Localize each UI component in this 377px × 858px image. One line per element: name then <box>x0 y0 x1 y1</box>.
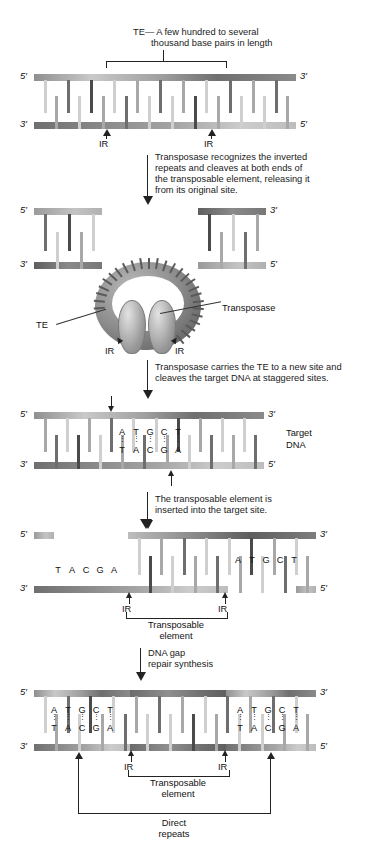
panel4-te-label-line2: element <box>126 631 226 642</box>
base-pair-rung <box>221 418 224 452</box>
base-pair-rung <box>138 538 141 575</box>
base-pair-rung <box>205 538 208 575</box>
overhang-base-left: A <box>67 566 77 575</box>
direct-repeat-right-stem <box>270 758 271 814</box>
base-pair-rung <box>229 80 232 113</box>
panel1-bottom-3prime: 3′ <box>20 118 27 129</box>
base-pair-rung <box>192 714 195 751</box>
transposase-lobe-left <box>118 300 146 354</box>
base-pair-bond: ⋮ <box>77 715 87 719</box>
panel5-bottom-left-backbone <box>34 744 130 751</box>
overhang-base-right: T <box>247 556 257 565</box>
base-pair-rung <box>171 96 174 129</box>
base-letter-bottom: A <box>173 446 183 455</box>
panel5-top-3prime: 3′ <box>320 686 327 697</box>
base-pair-rung <box>149 556 152 593</box>
base-letter-bottom: G <box>91 724 101 733</box>
base-pair-rung <box>44 696 47 733</box>
base-pair-rung <box>136 80 139 113</box>
base-pair-rung <box>88 418 91 452</box>
base-pair-bond: ⋮ <box>91 715 101 719</box>
step1-arrow-stem <box>147 155 148 199</box>
step1-caption-line4: from its original site. <box>155 185 370 196</box>
base-pair-rung <box>244 232 247 269</box>
base-pair-rung <box>181 696 184 733</box>
base-pair-bond: ⋮ <box>63 715 73 719</box>
te-length-caption-line2: thousand base pairs in length <box>151 38 371 49</box>
te-span-bracket <box>106 61 227 68</box>
base-pair-rung <box>101 714 104 751</box>
base-pair-rung <box>286 96 289 129</box>
base-pair-rung <box>110 418 113 452</box>
base-pair-rung <box>226 696 229 733</box>
panel3-bottom-3prime: 3′ <box>20 458 27 469</box>
base-letter-bottom: T <box>49 724 59 733</box>
base-pair-bond: ⋮ <box>159 437 169 441</box>
overhang-base-right: G <box>261 556 271 565</box>
step2-arrow-head <box>143 390 153 399</box>
direct-repeat-right-arrow <box>267 752 275 759</box>
base-letter-bottom: C <box>145 446 155 455</box>
target-dna-label-line2: DNA <box>286 440 306 451</box>
base-pair-bond: ⋮ <box>277 715 287 719</box>
panel1-bottom-5prime: 5′ <box>300 118 307 129</box>
base-pair-rung <box>204 696 207 733</box>
base-pair-rung <box>254 435 257 469</box>
loop-ir-left-label: IR <box>105 346 114 357</box>
base-pair-rung <box>66 418 69 452</box>
base-letter-bottom: G <box>159 446 169 455</box>
base-pair-rung <box>68 214 71 251</box>
step3-caption-line1: The transposable element is <box>155 494 370 505</box>
base-pair-rung <box>171 556 174 593</box>
base-pair-rung <box>232 435 235 469</box>
panel5-bottom-3prime: 3′ <box>20 740 27 751</box>
panel2-left-bottom-backbone <box>34 262 102 269</box>
base-pair-rung <box>194 96 197 129</box>
overhang-base-left: A <box>109 566 119 575</box>
step1-caption-line2: repeats and cleaves at both ends of <box>155 163 370 174</box>
overhang-base-left: G <box>95 566 105 575</box>
panel1-ir-left-label: IR <box>99 139 108 150</box>
base-pair-bond: ⋮ <box>117 437 127 441</box>
step4-caption-line2: repair synthesis <box>148 659 328 670</box>
base-letter-bottom: G <box>277 724 287 733</box>
panel5-top-right-backbone <box>226 690 316 697</box>
base-pair-rung <box>205 80 208 113</box>
base-pair-rung <box>228 538 231 575</box>
panel4-bottom-3prime: 3′ <box>20 582 27 593</box>
panel3-top-3prime: 3′ <box>268 408 275 419</box>
base-pair-rung <box>158 696 161 733</box>
base-pair-rung <box>113 80 116 113</box>
transposase-lobe-right <box>148 300 176 354</box>
step4-arrow-head <box>136 672 146 681</box>
panel1-top-backbone <box>34 74 296 81</box>
base-pair-rung <box>256 214 259 251</box>
base-pair-rung <box>148 96 151 129</box>
base-pair-rung <box>240 96 243 129</box>
panel4-right-5prime: 5′ <box>320 582 327 593</box>
base-pair-rung <box>220 232 223 269</box>
panel4-insertion-marker <box>140 519 152 529</box>
base-pair-rung <box>44 80 47 113</box>
base-pair-rung <box>135 696 138 733</box>
panel3-top-5prime: 5′ <box>20 408 27 419</box>
base-letter-bottom: C <box>77 724 87 733</box>
panel2-right-5prime: 5′ <box>270 258 277 269</box>
base-pair-bond: ⋮ <box>235 715 245 719</box>
direct-repeats-label-line1: Direct <box>124 818 224 829</box>
base-pair-rung <box>55 435 58 469</box>
transposase-label: Transposase <box>222 303 275 314</box>
base-letter-bottom: C <box>263 724 273 733</box>
panel3-bottom-backbone <box>34 462 264 469</box>
base-pair-rung <box>306 714 309 751</box>
base-pair-rung <box>232 214 235 251</box>
base-pair-rung <box>199 418 202 452</box>
step1-arrow-head <box>143 196 153 205</box>
base-pair-rung <box>216 556 219 593</box>
base-pair-rung <box>160 538 163 575</box>
panel5-top-te-backbone <box>130 690 226 697</box>
panel3-cut-top-arrow <box>108 406 114 412</box>
panel4-left-5prime: 5′ <box>20 528 27 539</box>
base-pair-bond: ⋮ <box>131 437 141 441</box>
target-dna-label-line1: Target <box>286 428 312 439</box>
